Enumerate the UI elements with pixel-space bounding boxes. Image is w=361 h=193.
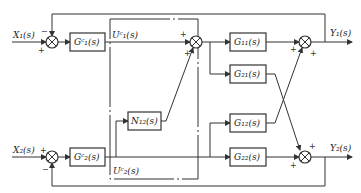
- y2-label: Y₂(s): [330, 143, 352, 153]
- summer-1-icon: [46, 36, 58, 48]
- g21-to-sum2: [266, 74, 300, 150]
- x1-label: X₁(s): [12, 30, 35, 40]
- gc1-label: Gᶜ₁(s): [74, 37, 100, 47]
- sign: +: [40, 146, 47, 155]
- sign: +: [290, 45, 297, 54]
- sign: −: [42, 165, 49, 174]
- decoupler-boundary: [110, 19, 198, 179]
- uc1-label: Uᶜ₁(s): [112, 30, 138, 40]
- line: [210, 42, 230, 74]
- summer-y1-icon: [299, 36, 311, 48]
- sign: +: [38, 46, 45, 55]
- summer-y2-icon: [299, 151, 311, 163]
- g22-label: G₂₂(s): [234, 152, 261, 162]
- g12-to-sum1: [266, 48, 302, 123]
- uc2-label: Uᶜ₂(s): [113, 166, 139, 176]
- sign: −: [41, 27, 48, 36]
- y1-label: Y₁(s): [330, 28, 352, 38]
- gc2-label: Gᶜ₂(s): [74, 152, 100, 162]
- line: [161, 48, 193, 121]
- g11-label: G₁₁(s): [234, 37, 261, 47]
- line: [210, 123, 230, 157]
- n12-label: N₁₂(s): [130, 116, 158, 126]
- summer-mid-icon: [190, 36, 202, 48]
- line: [116, 121, 128, 157]
- x2-label: X₂(s): [12, 145, 35, 155]
- sign: +: [184, 49, 191, 58]
- sign: +: [309, 142, 316, 151]
- summer-2-icon: [46, 151, 58, 163]
- g12-label: G₁₂(s): [234, 118, 261, 128]
- block-diagram: X₁(s) X₂(s) Y₁(s) Y₂(s) Uᶜ₁(s) Uᶜ₂(s) Gᶜ…: [0, 0, 361, 193]
- sign: +: [290, 161, 297, 170]
- sign: +: [310, 49, 317, 58]
- sign: +: [180, 30, 187, 39]
- g21-label: G₂₁(s): [234, 69, 261, 79]
